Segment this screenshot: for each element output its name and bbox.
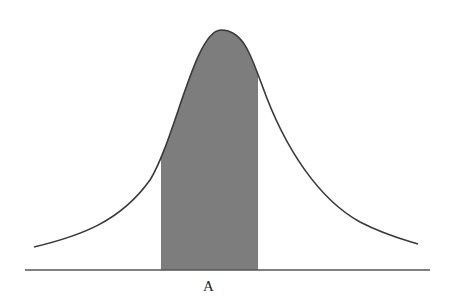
bell-curve-diagram — [0, 0, 450, 306]
region-label: A — [203, 278, 214, 295]
shaded-region — [34, 30, 418, 270]
